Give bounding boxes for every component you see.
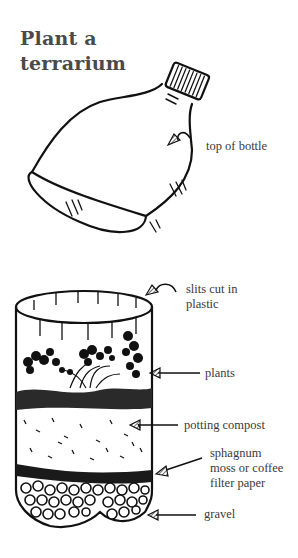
arrow-slits — [156, 284, 176, 292]
label-sphagnum-line-1: sphagnum — [210, 446, 261, 461]
potting-compost-layer — [24, 418, 142, 460]
label-top-of-bottle: top of bottle — [206, 139, 267, 154]
arrow-sphagnum — [166, 458, 202, 470]
label-slits-line-1: slits cut in — [186, 282, 237, 297]
label-sphagnum-line-2: moss or coffee — [210, 461, 283, 476]
label-potting-compost: potting compost — [184, 418, 265, 433]
soil-top-band — [16, 388, 152, 410]
label-slits-line-2: plastic — [186, 297, 219, 312]
bottle-top-drawing — [29, 62, 210, 232]
gravel-layer — [21, 481, 149, 519]
label-plants: plants — [205, 366, 235, 381]
label-sphagnum-line-3: filter paper — [210, 476, 265, 491]
label-gravel: gravel — [204, 507, 235, 522]
plants-layer — [23, 331, 143, 378]
arrow-top-of-bottle — [168, 133, 190, 145]
